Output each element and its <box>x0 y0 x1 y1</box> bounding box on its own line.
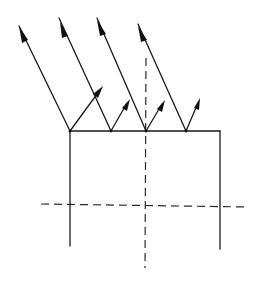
vertical-axis-dashed <box>145 58 146 268</box>
arrow-up-icon <box>194 98 200 110</box>
incident-rays <box>19 18 186 131</box>
contact-point <box>145 130 148 133</box>
contact-point <box>69 130 72 133</box>
reflected-rays <box>70 86 200 131</box>
symmetry-axes <box>41 58 248 268</box>
contact-point <box>110 130 113 133</box>
reflected-ray-1 <box>70 90 100 131</box>
reflection-diagram <box>0 0 265 286</box>
diagram-canvas <box>0 0 265 286</box>
incident-ray-1 <box>19 26 70 131</box>
arrow-down-icon <box>138 26 147 42</box>
arrow-down-icon <box>97 20 106 36</box>
incident-ray-3 <box>97 18 146 131</box>
arrow-down-icon <box>60 22 68 38</box>
horizontal-axis-dashed <box>41 204 248 207</box>
arrow-down-icon <box>19 26 28 43</box>
contact-point <box>185 130 188 133</box>
